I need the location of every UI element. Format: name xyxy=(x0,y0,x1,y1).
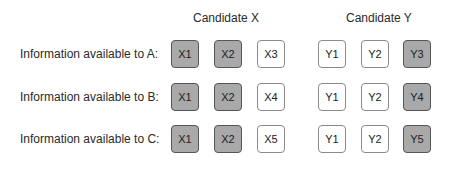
box-a-y2: Y2 xyxy=(361,40,389,68)
box-b-y1: Y1 xyxy=(318,83,346,111)
header-candidate-x: Candidate X xyxy=(193,11,259,25)
box-c-y5: Y5 xyxy=(403,125,431,153)
box-a-y1: Y1 xyxy=(318,40,346,68)
box-b-y2: Y2 xyxy=(361,83,389,111)
box-c-y2: Y2 xyxy=(361,125,389,153)
box-b-x1: X1 xyxy=(171,83,199,111)
box-a-x1: X1 xyxy=(171,40,199,68)
box-c-x2: X2 xyxy=(214,125,242,153)
box-b-x2: X2 xyxy=(214,83,242,111)
row-label-c: Information available to C: xyxy=(20,132,159,146)
box-c-y1: Y1 xyxy=(318,125,346,153)
box-b-x4: X4 xyxy=(257,83,285,111)
box-a-y3: Y3 xyxy=(403,40,431,68)
box-c-x1: X1 xyxy=(171,125,199,153)
row-label-b: Information available to B: xyxy=(20,90,159,104)
row-label-a: Information available to A: xyxy=(20,47,158,61)
box-c-x5: X5 xyxy=(257,125,285,153)
header-candidate-y: Candidate Y xyxy=(346,11,412,25)
box-a-x2: X2 xyxy=(214,40,242,68)
box-b-y4: Y4 xyxy=(403,83,431,111)
box-a-x3: X3 xyxy=(257,40,285,68)
